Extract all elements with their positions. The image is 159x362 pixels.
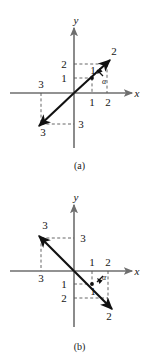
ytick-label-neg2-b: 2 xyxy=(61,292,67,304)
axis-x-label-b: x xyxy=(134,265,140,277)
figure-b-canvas: x y 3 1 2 3 1 2 1 3 2 α xyxy=(0,181,159,362)
figure-caption-b: (b) xyxy=(0,341,159,352)
point-label-1-b: 1 xyxy=(90,285,96,297)
figure-caption-a: (a) xyxy=(0,160,159,171)
figure-panel-a: x y 2 1 1 2 3 3 1 2 3 α (a) xyxy=(0,0,159,181)
tip-label-2-a: 2 xyxy=(111,45,117,57)
angle-alpha-label-b: α xyxy=(102,273,107,282)
ytick-label-neg1-b: 1 xyxy=(61,278,67,290)
angle-alpha-indicator-a xyxy=(97,68,103,76)
axis-y-label-a: y xyxy=(73,14,79,26)
tip-label-3-a: 3 xyxy=(40,126,46,138)
angle-alpha-label-a: α xyxy=(102,77,107,86)
xtick-label-neg3-b: 3 xyxy=(38,272,44,284)
xtick-label-2-a: 2 xyxy=(105,96,111,108)
point-label-1-a: 1 xyxy=(90,64,96,76)
axis-y-label-b: y xyxy=(73,191,79,203)
figure-panel-b: x y 3 1 2 3 1 2 1 3 2 α (b) xyxy=(0,181,159,362)
ytick-label-neg3-a: 3 xyxy=(78,118,84,130)
ytick-label-2-a: 2 xyxy=(61,58,67,70)
xtick-label-1-b: 1 xyxy=(89,256,95,268)
xtick-label-2-b: 2 xyxy=(105,256,111,268)
xtick-label-1-a: 1 xyxy=(89,96,95,108)
ytick-label-1-a: 1 xyxy=(61,72,67,84)
ytick-label-3-b: 3 xyxy=(80,232,86,244)
tip-label-3-b: 3 xyxy=(42,219,48,231)
figure-a-canvas: x y 2 1 1 2 3 3 1 2 3 α xyxy=(0,0,159,181)
xtick-label-neg3-a: 3 xyxy=(38,78,44,90)
tip-label-2-b: 2 xyxy=(106,310,112,322)
axis-x-label-a: x xyxy=(134,87,140,99)
